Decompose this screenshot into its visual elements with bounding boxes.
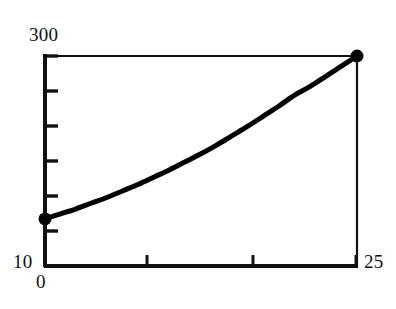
y-axis-min-label: 10 (13, 252, 33, 271)
data-point-marker-0 (39, 212, 52, 225)
x-axis-min-label: 0 (36, 272, 46, 291)
data-point-marker-1 (351, 50, 364, 63)
x-axis-max-label: 25 (364, 252, 384, 271)
chart-screenshot: 300 10 0 25 (0, 0, 396, 309)
y-axis-max-label: 300 (29, 25, 58, 44)
line-chart (0, 0, 396, 309)
